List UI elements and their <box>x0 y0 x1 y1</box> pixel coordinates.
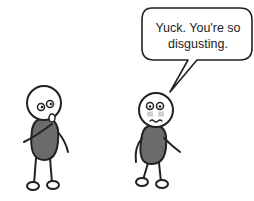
speech-line-2: disgusting. <box>150 36 246 52</box>
speech-line-1: Yuck. You're so <box>150 20 246 36</box>
right-stick-figure <box>136 93 180 188</box>
left-stick-figure <box>24 86 68 190</box>
speech-bubble-text: Yuck. You're so disgusting. <box>150 20 246 52</box>
